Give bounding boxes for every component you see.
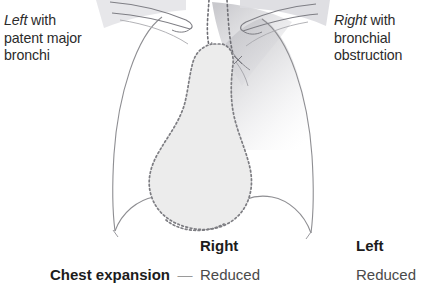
- annotation-left-line1: Left with: [4, 12, 82, 30]
- annotation-left-lung: Left with patent major bronchi: [4, 12, 82, 65]
- annotation-right-line2: bronchial: [334, 30, 402, 48]
- annotation-left-line3: bronchi: [4, 47, 82, 65]
- annotation-left-rest: with: [27, 12, 56, 28]
- findings-row-chest-expansion: Chest expansion — Reduced Reduced: [0, 265, 422, 287]
- finding-value-left: Reduced: [356, 265, 416, 285]
- findings-table-header: Right Left: [0, 236, 422, 258]
- annotation-right-side: Right: [334, 12, 367, 28]
- annotation-right-line3: obstruction: [334, 47, 402, 65]
- annotation-right-rest: with: [367, 12, 396, 28]
- annotation-left-line2: patent major: [4, 30, 82, 48]
- annotation-right-line1: Right with: [334, 12, 402, 30]
- column-header-left: Left: [356, 236, 384, 256]
- left-clavicle-inferior: [172, 29, 190, 32]
- annotation-left-side: Left: [4, 12, 27, 28]
- finding-value-right: Reduced: [200, 265, 260, 285]
- trachea-left-wall: [207, 0, 209, 46]
- finding-dash: —: [174, 265, 196, 285]
- finding-label: Chest expansion: [0, 265, 170, 285]
- column-header-right: Right: [200, 236, 238, 256]
- annotation-right-lung: Right with bronchial obstruction: [334, 12, 402, 65]
